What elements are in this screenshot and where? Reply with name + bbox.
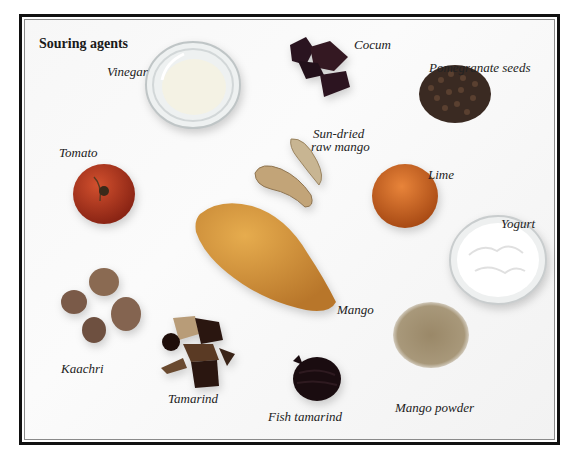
kaachri-image xyxy=(60,264,146,346)
label-pomegranate-seeds: Pomegranate seeds xyxy=(429,60,530,76)
label-lime: Lime xyxy=(428,167,454,183)
label-cocum: Cocum xyxy=(354,37,391,53)
label-tomato: Tomato xyxy=(59,145,98,161)
label-yogurt: Yogurt xyxy=(501,216,535,232)
label-fish-tamarind: Fish tamarind xyxy=(268,409,342,425)
fish-tamarind-image xyxy=(291,353,345,403)
mango-image xyxy=(190,198,340,316)
photo-background: Souring agents Vinegar Cocum xyxy=(24,19,555,440)
tomato-image xyxy=(72,163,136,225)
tamarind-image xyxy=(161,316,237,390)
label-mango: Mango xyxy=(337,302,374,318)
photo-frame: Souring agents Vinegar Cocum xyxy=(19,14,560,445)
label-sun-dried-raw-mango-line2: raw mango xyxy=(311,139,370,155)
page-title: Souring agents xyxy=(39,36,128,52)
vinegar-bowl-image xyxy=(144,40,242,130)
label-kaachri: Kaachri xyxy=(61,361,104,377)
mango-powder-image xyxy=(391,297,471,369)
label-vinegar: Vinegar xyxy=(107,64,148,80)
label-mango-powder: Mango powder xyxy=(395,400,474,416)
label-tamarind: Tamarind xyxy=(168,391,218,407)
